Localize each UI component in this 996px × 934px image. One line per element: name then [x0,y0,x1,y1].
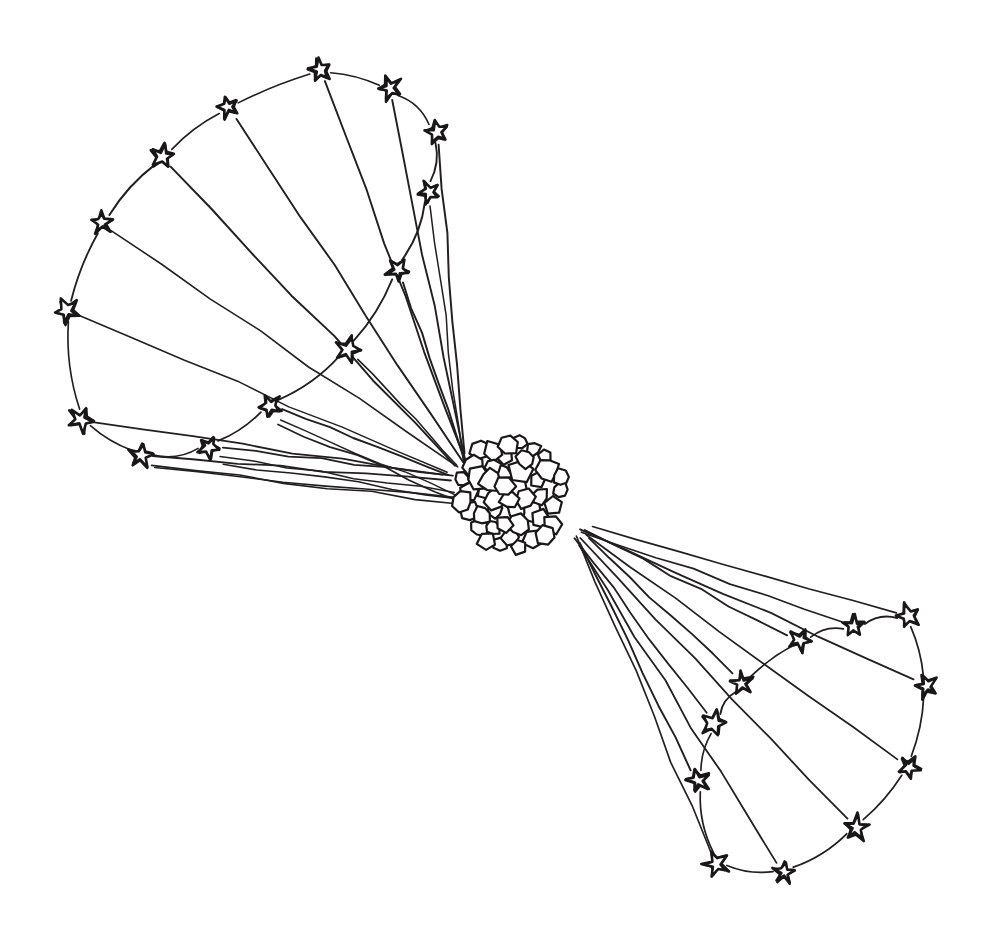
illustration-canvas: Two star clusters radiating toward a cen… [0,0,996,934]
constellation-figure: Two star clusters radiating toward a cen… [0,0,996,934]
cluster-cell [498,436,518,454]
cluster-cell [554,468,569,485]
